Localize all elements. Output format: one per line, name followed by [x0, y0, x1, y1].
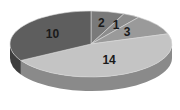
slice-label-1: 1: [113, 18, 120, 32]
pie-slices: [10, 11, 172, 77]
slice-label-3: 14: [102, 53, 116, 67]
pie-chart: 2 1 3 14 10: [0, 0, 180, 110]
slice-label-0: 2: [98, 16, 105, 30]
slice-label-2: 3: [124, 25, 131, 39]
slice-label-4: 10: [46, 27, 60, 41]
